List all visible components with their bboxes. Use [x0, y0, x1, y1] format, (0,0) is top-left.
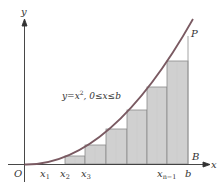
- diagram-canvas: y x O P B y=x2, 0≤x≤b x1 x2 x3 xn−1 b: [0, 0, 220, 186]
- y-axis-label: y: [20, 6, 27, 17]
- point-B-label: B: [191, 151, 199, 162]
- tick-label-x1: x1: [40, 168, 50, 181]
- tick-label-x2: x2: [60, 168, 70, 181]
- tick-label-x3: x3: [81, 168, 91, 181]
- rectangle-6: [167, 61, 188, 164]
- point-P-label: P: [190, 28, 198, 39]
- rectangle-2: [85, 145, 106, 164]
- origin-label: O: [14, 168, 22, 179]
- x-axis-arrow-icon: [203, 162, 210, 167]
- tick-label-b: b: [185, 168, 191, 179]
- tick-label-xn-1: xn−1: [157, 168, 176, 181]
- x-axis-label: x: [211, 159, 217, 170]
- equation-label: y=x2, 0≤x≤b: [61, 89, 121, 101]
- y-axis-arrow-icon: [22, 19, 27, 26]
- riemann-sum-figure: y x O P B y=x2, 0≤x≤b x1 x2 x3 xn−1 b: [0, 0, 220, 186]
- rectangle-3: [106, 129, 127, 164]
